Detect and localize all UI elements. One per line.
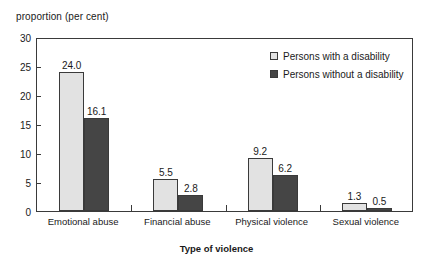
y-axis-title: proportion (per cent) — [16, 11, 109, 22]
bar — [248, 158, 273, 211]
legend-swatch-light-icon — [270, 52, 278, 60]
x-axis-tick-mark — [131, 205, 132, 211]
y-axis-tick-mark — [36, 183, 41, 184]
x-axis-category-label: Emotional abuse — [48, 216, 119, 227]
bar — [273, 175, 298, 211]
legend-item-label: Persons with a disability — [283, 51, 390, 62]
bar — [153, 179, 178, 211]
bar-value-label: 2.8 — [184, 183, 198, 194]
y-axis-tick-mark — [36, 125, 41, 126]
x-axis-tick-mark — [320, 205, 321, 211]
y-axis-tick: 0 — [0, 212, 31, 213]
y-axis-tick-label: 20 — [7, 91, 31, 102]
bar — [59, 72, 84, 211]
y-axis-tick-label: 0 — [7, 207, 31, 218]
y-axis-tick-label: 15 — [7, 120, 31, 131]
y-axis-tick-label: 5 — [7, 178, 31, 189]
chart-legend: Persons with a disability Persons withou… — [270, 48, 404, 84]
bar-value-label: 5.5 — [159, 167, 173, 178]
legend-item-label: Persons without a disability — [283, 69, 404, 80]
legend-swatch-dark-icon — [270, 70, 278, 78]
y-axis-tick-label: 30 — [7, 33, 31, 44]
y-axis-tick: 10 — [0, 154, 31, 155]
legend-item-with-disability: Persons with a disability — [270, 48, 404, 64]
bar-value-label: 1.3 — [347, 191, 361, 202]
bar-value-label: 6.2 — [278, 163, 292, 174]
y-axis-tick-mark — [36, 96, 41, 97]
bar — [342, 203, 367, 211]
y-axis-tick: 20 — [0, 96, 31, 97]
x-axis-tick-mark — [226, 205, 227, 211]
x-axis-title: Type of violence — [0, 243, 433, 254]
bar-value-label: 0.5 — [372, 196, 386, 207]
y-axis-tick: 15 — [0, 125, 31, 126]
bar — [84, 118, 109, 211]
y-axis-tick: 5 — [0, 183, 31, 184]
bar-chart: proportion (per cent) 24.016.15.52.89.26… — [0, 0, 433, 269]
y-axis-tick-label: 10 — [7, 149, 31, 160]
y-axis-tick-mark — [36, 67, 41, 68]
x-axis-category-label: Financial abuse — [144, 216, 211, 227]
y-axis-tick-label: 25 — [7, 62, 31, 73]
y-axis-tick: 30 — [0, 38, 31, 39]
bar-value-label: 16.1 — [87, 106, 106, 117]
y-axis-tick: 25 — [0, 67, 31, 68]
y-axis-tick-mark — [36, 154, 41, 155]
bar — [367, 208, 392, 211]
bar-value-label: 9.2 — [253, 146, 267, 157]
bar-value-label: 24.0 — [62, 60, 81, 71]
bar — [178, 195, 203, 211]
x-axis-category-label: Sexual violence — [333, 216, 400, 227]
x-axis-category-label: Physical violence — [235, 216, 308, 227]
legend-item-without-disability: Persons without a disability — [270, 66, 404, 82]
